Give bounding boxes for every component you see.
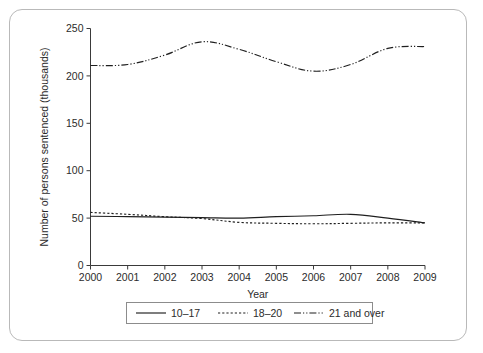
legend-items: 10–1718–2021 and over [136, 307, 385, 319]
legend-label-3: 21 and over [329, 307, 385, 319]
legend-label-1: 10–17 [171, 307, 200, 319]
legend-label-2: 18–20 [253, 307, 282, 319]
figure-container: 050100150200250 200020012002200320042005… [0, 0, 483, 353]
legend: 10–1718–2021 and over [0, 0, 483, 353]
